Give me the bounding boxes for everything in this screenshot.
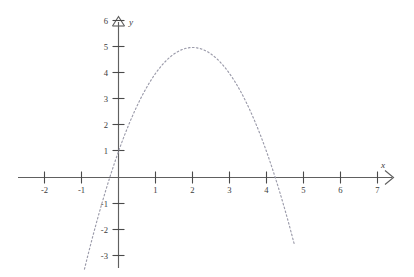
x-tick-label: 7 — [375, 185, 380, 195]
y-tick-label: 2 — [104, 120, 108, 130]
y-tick-label: -2 — [101, 225, 108, 235]
y-tick-label: 3 — [104, 94, 108, 104]
x-tick-label: 5 — [301, 185, 305, 195]
y-tick-label: 5 — [104, 42, 108, 52]
x-axis-label: x — [380, 160, 386, 170]
x-tick-label: 1 — [153, 185, 157, 195]
y-tick-label: 4 — [104, 68, 109, 78]
x-tick-label: 3 — [227, 185, 231, 195]
x-tick-label: -2 — [41, 185, 48, 195]
y-tick-label: -3 — [101, 251, 108, 261]
x-tick-label: 4 — [264, 185, 269, 195]
x-tick-label: -1 — [78, 185, 85, 195]
x-tick-label: 2 — [190, 185, 194, 195]
y-tick-label: 1 — [104, 146, 108, 156]
cartesian-plot: -2 -1 1 2 3 4 5 6 7 6 5 4 3 2 1 -1 -2 -3… — [0, 0, 414, 277]
graph-canvas: -2 -1 1 2 3 4 5 6 7 6 5 4 3 2 1 -1 -2 -3… — [0, 0, 414, 277]
y-axis-label: y — [128, 17, 134, 27]
x-tick-label: 6 — [338, 185, 343, 195]
parabola-curve — [84, 48, 294, 270]
y-tick-label: 6 — [104, 16, 109, 26]
